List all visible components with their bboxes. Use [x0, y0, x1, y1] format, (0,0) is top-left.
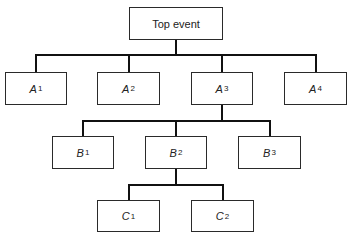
connector-b3	[269, 120, 271, 136]
connector-b2-stem	[175, 168, 177, 185]
node-label: B	[170, 147, 177, 159]
connector-a2	[128, 54, 130, 72]
connector-a1	[35, 54, 37, 72]
node-b2: B2	[145, 136, 207, 169]
node-subscript: 1	[38, 84, 42, 93]
connector-c1	[128, 184, 130, 200]
connector-a-bus	[35, 54, 317, 56]
node-subscript: 1	[85, 148, 89, 157]
node-top-event: Top event	[129, 7, 223, 40]
node-subscript: 3	[224, 84, 228, 93]
node-subscript: 1	[131, 212, 135, 221]
node-b3: B3	[238, 136, 301, 169]
connector-b1	[82, 120, 84, 136]
node-c1: C1	[97, 200, 160, 232]
node-label: C	[216, 210, 224, 222]
node-subscript: 2	[225, 212, 229, 221]
node-subscript: 4	[317, 84, 321, 93]
node-a3: A3	[191, 72, 253, 105]
connector-b2	[175, 120, 177, 136]
node-subscript: 2	[178, 148, 182, 157]
node-subscript: 3	[271, 148, 275, 157]
node-subscript: 2	[130, 84, 134, 93]
node-label: A	[309, 83, 316, 95]
connector-a3	[221, 54, 223, 72]
connector-c2	[222, 184, 224, 200]
node-label: Top event	[152, 18, 200, 30]
node-label: A	[216, 83, 223, 95]
node-label: B	[77, 147, 84, 159]
node-label: B	[263, 147, 270, 159]
node-label: A	[122, 83, 129, 95]
node-c2: C2	[191, 200, 254, 232]
node-label: C	[122, 210, 130, 222]
connector-c-bus	[128, 184, 224, 186]
node-a1: A1	[5, 72, 67, 105]
connector-a4	[315, 54, 317, 72]
node-b1: B1	[52, 136, 114, 169]
node-label: A	[30, 83, 37, 95]
connector-a3-stem	[221, 104, 223, 121]
node-a4: A4	[284, 72, 347, 105]
fault-tree-diagram: Top event A1 A2 A3 A4 B1 B2 B3 C1 C2	[0, 0, 354, 240]
node-a2: A2	[97, 72, 160, 105]
